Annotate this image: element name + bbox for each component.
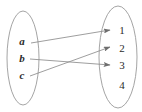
arrow-b-to-3	[30, 59, 110, 65]
arrow-c-to-2	[30, 47, 110, 76]
codomain-element-2: 2	[119, 43, 125, 54]
codomain-element-3: 3	[119, 60, 125, 71]
mapping-diagram: a b c 1 2 3 4	[0, 0, 142, 112]
codomain-oval	[99, 6, 137, 108]
codomain-element-1: 1	[119, 25, 125, 36]
domain-element-b: b	[19, 53, 25, 64]
domain-element-a: a	[19, 36, 25, 47]
domain-element-c: c	[20, 70, 25, 81]
codomain-element-4: 4	[119, 80, 125, 91]
arrow-a-to-1	[31, 30, 110, 43]
